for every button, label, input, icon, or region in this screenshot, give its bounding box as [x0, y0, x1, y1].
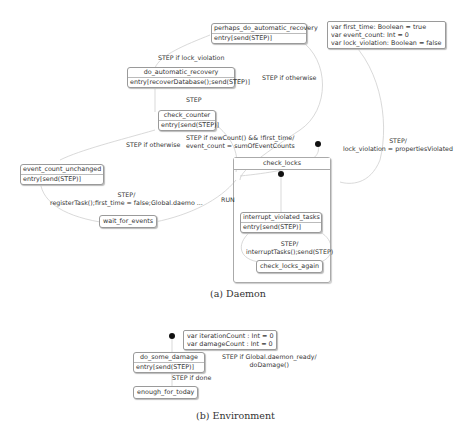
transition-label-step-if-done: STEP if done	[172, 374, 211, 382]
state-name: interrupt_violated_tasks	[241, 213, 321, 222]
variable-first-time: var first_time: Boolean = true	[331, 23, 442, 31]
transition-label-interrupt-tasks: STEP/ interruptTasks();send(STEP)	[246, 240, 333, 256]
transition-label-step-if-lock-violation: STEP if lock_violation	[158, 54, 224, 62]
transition-label-lock-violation: STEP/ lock_violation = propertiesViolate…	[343, 137, 453, 153]
state-entry-action: entry[send(STEP)]	[134, 362, 204, 372]
transition-label-new-count: STEP if newCount() && !first_time/ event…	[186, 134, 295, 150]
state-name: wait_for_events	[100, 216, 156, 227]
transition-label-step-if-otherwise-left: STEP if otherwise	[126, 141, 180, 149]
transition-label-step-if-otherwise: STEP if otherwise	[262, 74, 316, 82]
variable-damage-count: var damageCount : Int = 0	[187, 340, 273, 348]
state-event-count-unchanged: event_count_unchanged entry[send(STEP)]	[20, 164, 104, 185]
state-name: event_count_unchanged	[21, 165, 103, 174]
transition-label-run: RUN	[221, 196, 235, 204]
caption-daemon: (a) Daemon	[210, 288, 266, 299]
variable-iteration-count: var iterationCount : Int = 0	[187, 332, 273, 340]
state-entry-action: entry[send(STEP)]	[159, 120, 215, 130]
state-entry-action: entry[send(STEP)]	[21, 174, 103, 184]
state-name: check_locks_again	[257, 261, 322, 272]
state-name: enough_for_today	[134, 387, 197, 398]
state-name: perhaps_do_automatic_recovery	[212, 24, 306, 33]
state-wait-for-events: wait_for_events	[99, 215, 157, 228]
state-do-some-damage: do_some_damage entry[send(STEP)]	[133, 352, 205, 373]
variable-lock-violation: var lock_violation: Boolean = false	[331, 39, 442, 47]
state-do-automatic-recovery: do_automatic_recovery entry[recoverDatab…	[127, 67, 235, 88]
transition-label-global-ready: STEP if Global.daemon_ready/ doDamage()	[222, 353, 317, 369]
state-interrupt-violated-tasks: interrupt_violated_tasks entry[send(STEP…	[240, 212, 322, 233]
environment-variables: var iterationCount : Int = 0 var damageC…	[183, 330, 277, 350]
state-entry-action: entry[send(STEP)]	[212, 33, 306, 43]
state-name: check_counter	[159, 111, 215, 120]
state-machine-figure: perhaps_do_automatic_recovery entry[send…	[0, 0, 474, 428]
state-name: check_locks	[234, 158, 330, 170]
state-perhaps-do-automatic-recovery: perhaps_do_automatic_recovery entry[send…	[211, 23, 307, 44]
initial-state-dot	[315, 141, 321, 147]
state-entry-action: entry[send(STEP)]	[241, 222, 321, 232]
variable-event-count: var event_count: Int = 0	[331, 31, 442, 39]
environment-initial-dot	[169, 333, 175, 339]
state-name: do_some_damage	[134, 353, 204, 362]
state-check-locks-again: check_locks_again	[256, 260, 323, 273]
check-locks-initial-dot	[278, 171, 284, 177]
caption-environment: (b) Environment	[196, 410, 275, 421]
state-entry-action: entry[recoverDatabase();send(STEP)]	[128, 77, 234, 87]
daemon-variables: var first_time: Boolean = true var event…	[327, 21, 446, 49]
state-check-counter: check_counter entry[send(STEP)]	[158, 110, 216, 131]
transition-label-register-task: STEP/ registerTask();first_time = false;…	[50, 191, 203, 207]
state-enough-for-today: enough_for_today	[133, 386, 198, 399]
state-name: do_automatic_recovery	[128, 68, 234, 77]
transition-label-step: STEP	[186, 96, 202, 104]
